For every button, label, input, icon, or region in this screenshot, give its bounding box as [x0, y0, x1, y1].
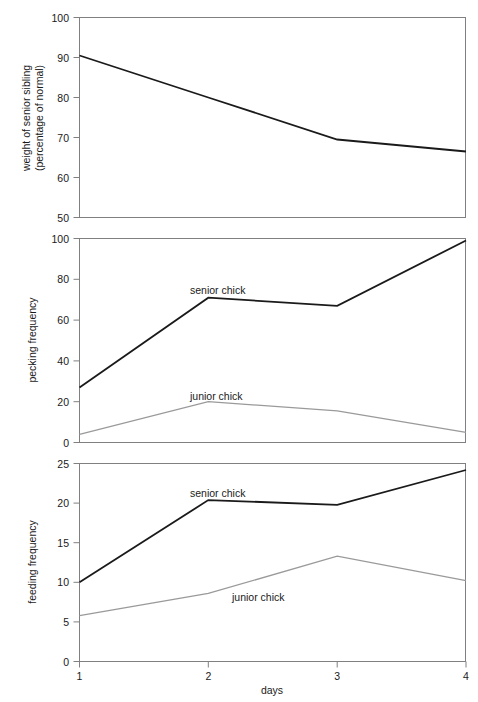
panel3-xtick-2: 2: [205, 670, 211, 682]
panel3-ytick-15: 15: [57, 537, 69, 549]
panel3-ytick-20: 20: [57, 497, 69, 509]
panel2-ytick-60: 60: [57, 314, 69, 326]
panel3-y-axis-title: feeding frequency: [26, 520, 38, 604]
panel2-junior-chick-annotation: junior chick: [189, 390, 243, 402]
panel1-ytick-100: 100: [51, 12, 69, 24]
panel3-junior-chick-annotation: junior chick: [231, 591, 285, 603]
panel1-ytick-80: 80: [57, 92, 69, 104]
panel3-senior-chick-annotation: senior chick: [190, 487, 246, 499]
panel3-xtick-1: 1: [77, 670, 83, 682]
panel3-ytick-5: 5: [63, 616, 69, 628]
panel2-senior-chick-annotation: senior chick: [190, 284, 246, 296]
x-axis-title: days: [261, 684, 283, 696]
panel1-ytick-90: 90: [57, 52, 69, 64]
panel1-y-axis-title-line1: weight of senior sibling: [20, 65, 32, 172]
panel3-ytick-10: 10: [57, 576, 69, 588]
panel1-ytick-70: 70: [57, 132, 69, 144]
panel3-xtick-3: 3: [334, 670, 340, 682]
panel3-ytick-0: 0: [63, 656, 69, 668]
panel3-ytick-25: 25: [57, 458, 69, 470]
panel1-ytick-50: 50: [57, 212, 69, 224]
panel2-ytick-0: 0: [63, 437, 69, 449]
panel1-y-axis-title-line2: (percentage of normal): [33, 65, 45, 171]
panel2-ytick-20: 20: [57, 396, 69, 408]
multi-panel-line-chart: 100 90 80 70 60 50 weight of senior sibl…: [0, 0, 478, 702]
panel1-ytick-60: 60: [57, 172, 69, 184]
panel2-y-axis-title: pecking frequency: [26, 297, 38, 383]
panel2-ytick-80: 80: [57, 273, 69, 285]
panel2-ytick-40: 40: [57, 355, 69, 367]
panel3-xtick-4: 4: [463, 670, 469, 682]
panel2-ytick-100: 100: [51, 233, 69, 245]
